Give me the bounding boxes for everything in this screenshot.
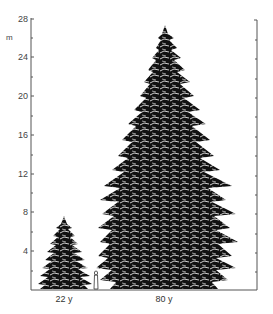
y-tick-28: 28 xyxy=(8,14,28,24)
y-tick-16: 16 xyxy=(8,130,28,140)
tree-22-label: 22 y xyxy=(44,294,84,304)
tree-22-years xyxy=(38,216,92,289)
y-tick-8: 8 xyxy=(8,207,28,217)
y-axis-unit: m xyxy=(6,33,13,42)
y-tick-24: 24 xyxy=(8,52,28,62)
left-axis xyxy=(31,18,34,290)
right-axis xyxy=(254,20,257,290)
y-tick-4: 4 xyxy=(8,246,28,256)
human-scale-figure xyxy=(94,271,98,289)
y-tick-12: 12 xyxy=(8,169,28,179)
tree-80-label: 80 y xyxy=(144,294,184,304)
tree-80-years xyxy=(96,25,238,289)
diagram-canvas xyxy=(0,0,273,314)
tree-growth-diagram: m 28 24 20 16 12 8 4 22 y 80 y xyxy=(0,0,273,314)
y-tick-20: 20 xyxy=(8,91,28,101)
